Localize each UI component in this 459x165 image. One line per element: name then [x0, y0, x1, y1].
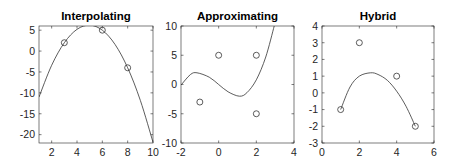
fit-curve [39, 25, 153, 142]
y-tick-label: -3 [309, 137, 318, 149]
data-point-marker [197, 99, 203, 105]
fit-curve [181, 26, 274, 96]
axes-box [181, 26, 294, 143]
x-tick-label: 4 [291, 146, 297, 158]
y-tick-label: -5 [168, 108, 177, 120]
fit-curve [341, 73, 416, 127]
y-tick-label: 0 [171, 78, 177, 90]
y-tick-label: 4 [312, 20, 318, 32]
y-tick-label: -2 [309, 120, 318, 132]
y-tick-label: -5 [26, 66, 35, 78]
y-tick-label: 10 [165, 20, 177, 32]
chart-title: Approximating [197, 10, 278, 22]
data-point-marker [253, 111, 259, 117]
x-tick-label: 2 [356, 146, 362, 158]
data-point-marker [216, 52, 222, 58]
x-tick-label: 8 [125, 146, 131, 158]
y-tick-label: 3 [312, 37, 318, 49]
x-tick-label: 2 [49, 146, 55, 158]
y-tick-label: -10 [20, 87, 35, 99]
x-tick-label: 2 [253, 146, 259, 158]
y-tick-label: 2 [312, 53, 318, 65]
y-tick-label: -15 [20, 108, 35, 120]
figure: Interpolating 246810-20-15-10-505 Approx… [0, 0, 459, 165]
x-tick-label: 6 [431, 146, 437, 158]
chart-title: Interpolating [61, 10, 131, 22]
x-tick-label: 4 [394, 146, 400, 158]
y-tick-label: -20 [20, 128, 35, 140]
y-tick-label: 5 [171, 49, 177, 61]
x-tick-label: -2 [176, 146, 185, 158]
y-tick-label: -1 [309, 103, 318, 115]
y-tick-label: 0 [312, 87, 318, 99]
panel-hybrid: Hybrid 0246-3-2-101234 [309, 10, 437, 158]
x-tick-label: 0 [216, 146, 222, 158]
x-tick-label: 6 [99, 146, 105, 158]
y-tick-label: 0 [29, 45, 35, 57]
data-point-marker [394, 73, 400, 79]
y-tick-label: -10 [162, 137, 177, 149]
axes-box [322, 26, 434, 143]
y-tick-label: 5 [29, 24, 35, 36]
panel-interpolating: Interpolating 246810-20-15-10-505 [20, 10, 159, 158]
x-tick-label: 10 [147, 146, 159, 158]
y-tick-label: 1 [312, 70, 318, 82]
data-point-marker [338, 107, 344, 113]
data-point-marker [356, 40, 362, 46]
axes-box [39, 26, 153, 143]
x-tick-label: 4 [74, 146, 80, 158]
x-tick-label: 0 [319, 146, 325, 158]
chart-title: Hybrid [360, 10, 396, 22]
panel-approximating: Approximating -2024-10-50510 [162, 10, 297, 158]
data-point-marker [253, 52, 259, 58]
